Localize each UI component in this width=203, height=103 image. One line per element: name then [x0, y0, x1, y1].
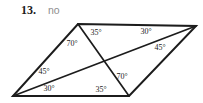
- angle-label-bottom-right-35: 35°: [95, 85, 106, 94]
- answer-key-figure: 13. no 35° 70° 30° 45° 45° 30° 70° 35°: [0, 0, 203, 103]
- geometry-diagram: 35° 70° 30° 45° 45° 30° 70° 35°: [0, 0, 203, 103]
- angle-label-top-left-70: 70°: [66, 39, 77, 48]
- angle-label-right-45: 45°: [154, 43, 165, 52]
- angle-label-top-right-30: 30°: [140, 27, 151, 36]
- angle-label-bottom-left-45: 45°: [38, 67, 49, 76]
- angle-label-bottom-right-70: 70°: [116, 72, 127, 81]
- angle-label-top-left-35: 35°: [90, 28, 101, 37]
- angle-label-bottom-left-30: 30°: [43, 84, 54, 93]
